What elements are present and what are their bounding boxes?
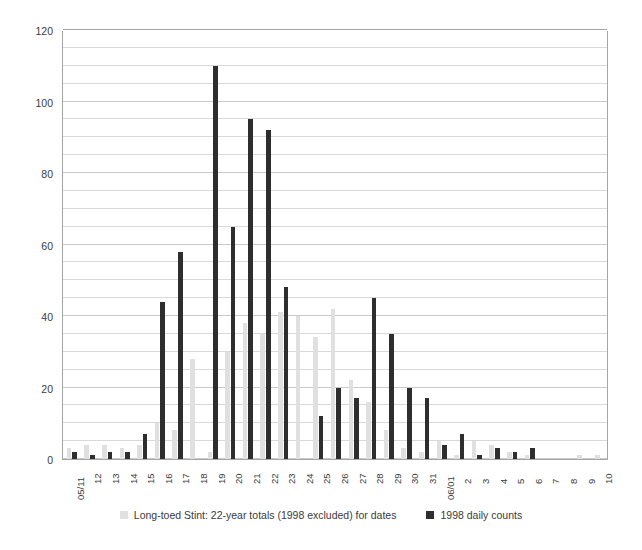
bar: [495, 448, 500, 459]
bar-group: [186, 31, 204, 459]
x-tick-label: 18: [198, 473, 209, 484]
legend-item[interactable]: 1998 daily counts: [426, 509, 522, 521]
bar-group: [521, 31, 539, 459]
bar: [525, 455, 530, 459]
chart-root: 020406080100120 05/111213141516171819202…: [0, 0, 642, 550]
bar-group: [274, 31, 292, 459]
bar: [354, 398, 359, 459]
bar: [160, 302, 165, 459]
bar: [472, 441, 477, 459]
legend-item[interactable]: Long-toed Stint: 22-year totals (1998 ex…: [120, 509, 397, 521]
x-tick-label: 15: [145, 473, 156, 484]
x-axis: 05/1112131415161718192021222324252627282…: [62, 462, 608, 508]
x-tick-label: 3: [480, 479, 491, 484]
bar: [319, 416, 324, 459]
bar-group: [292, 31, 310, 459]
x-tick-label: 12: [92, 473, 103, 484]
x-tick-label: 17: [180, 473, 191, 484]
bar-group: [503, 31, 521, 459]
y-axis: 020406080100120: [0, 0, 62, 470]
bar: [372, 298, 377, 459]
bar: [442, 445, 447, 459]
bar: [366, 402, 371, 459]
bar-group: [169, 31, 187, 459]
x-tick-label: 29: [392, 473, 403, 484]
bar-group: [116, 31, 134, 459]
bar: [284, 287, 289, 459]
bar: [507, 452, 512, 459]
bar: [213, 66, 218, 459]
bar-group: [415, 31, 433, 459]
bar-group: [591, 31, 609, 459]
x-tick-label: 25: [321, 473, 332, 484]
bar: [313, 337, 318, 459]
x-tick-label: 28: [374, 473, 385, 484]
x-tick-label: 22: [269, 473, 280, 484]
bar: [120, 448, 125, 459]
chart-legend: Long-toed Stint: 22-year totals (1998 ex…: [0, 509, 642, 521]
y-tick-label: 100: [35, 98, 53, 108]
bar-group: [450, 31, 468, 459]
bar-group: [63, 31, 81, 459]
bar: [143, 434, 148, 459]
bar-group: [556, 31, 574, 459]
bar: [84, 445, 89, 459]
y-tick-label: 20: [41, 384, 53, 394]
legend-label: 1998 daily counts: [440, 509, 522, 521]
x-tick-label: 10: [603, 473, 614, 484]
bar: [489, 445, 494, 459]
bar: [125, 452, 130, 459]
x-tick-label: 2: [462, 479, 473, 484]
bar-group: [574, 31, 592, 459]
x-tick-label: 6: [533, 479, 544, 484]
y-tick-label: 0: [47, 455, 53, 465]
x-tick-label: 4: [498, 479, 509, 484]
bar-group: [539, 31, 557, 459]
bar-group: [468, 31, 486, 459]
bar: [155, 423, 160, 459]
bar: [90, 455, 95, 459]
bar: [137, 445, 142, 459]
x-tick-label: 05/11: [75, 477, 86, 500]
bar: [260, 334, 265, 459]
y-tick-label: 60: [41, 241, 53, 251]
bar: [336, 388, 341, 460]
bar-group: [239, 31, 257, 459]
bar-group: [204, 31, 222, 459]
bar: [243, 323, 248, 459]
bar-group: [151, 31, 169, 459]
bar: [530, 448, 535, 459]
x-tick-label: 19: [216, 473, 227, 484]
x-tick-label: 9: [586, 479, 597, 484]
bar-group: [98, 31, 116, 459]
x-tick-label: 14: [128, 473, 139, 484]
bar: [401, 448, 406, 459]
bar: [513, 452, 518, 459]
x-tick-label: 16: [163, 473, 174, 484]
bar: [225, 352, 230, 459]
x-tick-label: 23: [286, 473, 297, 484]
x-tick-label: 27: [357, 473, 368, 484]
bar-group: [133, 31, 151, 459]
bar: [248, 119, 253, 459]
bar: [266, 130, 271, 459]
bar: [437, 441, 442, 459]
bar-group: [310, 31, 328, 459]
bar-group: [81, 31, 99, 459]
x-tick-label: 7: [550, 479, 561, 484]
bar: [595, 455, 600, 459]
bar: [102, 445, 107, 459]
gridline-major: [63, 29, 607, 30]
bar: [190, 359, 195, 459]
bar-group: [345, 31, 363, 459]
bar-group: [486, 31, 504, 459]
bar: [178, 252, 183, 459]
bar: [384, 430, 389, 459]
y-tick-label: 80: [41, 169, 53, 179]
x-tick-label: 31: [427, 473, 438, 484]
bar-group: [362, 31, 380, 459]
x-tick-label: 13: [110, 473, 121, 484]
bar: [172, 430, 177, 459]
x-tick-label: 24: [304, 473, 315, 484]
x-tick-label: 8: [568, 479, 579, 484]
